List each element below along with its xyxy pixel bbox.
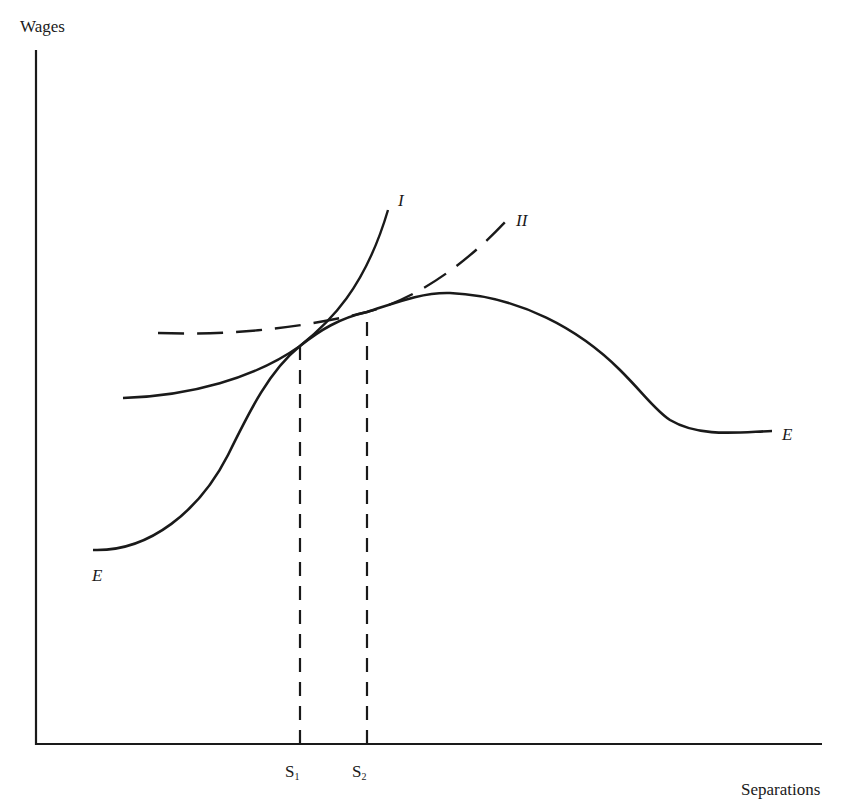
curve-e-left-label: E — [92, 567, 102, 584]
y-axis-label: Wages — [20, 18, 65, 35]
curve-i-label: I — [398, 192, 404, 209]
x-axis-label: Separations — [741, 781, 820, 798]
curve-i — [123, 210, 388, 398]
s1-subscript: 1 — [294, 771, 299, 782]
s2-tick-label: S2 — [352, 763, 366, 782]
curve-e — [93, 293, 772, 550]
curve-ii-label: II — [516, 212, 527, 229]
s2-subscript: 2 — [361, 771, 366, 782]
diagram-canvas — [0, 0, 852, 802]
curve-e-right-label: E — [782, 426, 792, 443]
s1-tick-label: S1 — [285, 763, 299, 782]
